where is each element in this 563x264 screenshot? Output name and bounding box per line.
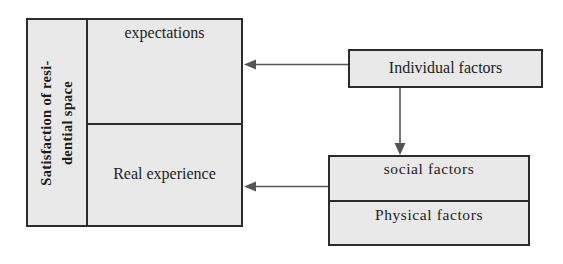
diagram-canvas: Satisfaction of resi- dential space expe… — [0, 0, 563, 264]
arrow-individual-to-social-physical — [395, 88, 406, 155]
physical-factors-cell: Physical factors — [330, 202, 528, 244]
real-experience-label: Real experience — [88, 165, 241, 183]
social-physical-factors-box: social factors Physical factors — [328, 155, 530, 246]
satisfaction-side-label-line2: dential space — [59, 80, 75, 164]
satisfaction-side-label-line1: Satisfaction of resi- — [38, 60, 54, 185]
individual-factors-label: Individual factors — [350, 59, 541, 77]
expectations-label: expectations — [88, 24, 241, 42]
satisfaction-side-label-cell: Satisfaction of resi- dential space — [28, 20, 88, 225]
expectations-cell: expectations — [88, 20, 241, 125]
social-factors-cell: social factors — [330, 157, 528, 202]
individual-factors-box: Individual factors — [348, 49, 543, 88]
physical-factors-label: Physical factors — [330, 206, 528, 224]
satisfaction-of-residential-space-box: Satisfaction of resi- dential space expe… — [26, 18, 243, 227]
arrow-social-to-real-experience — [244, 182, 328, 192]
satisfaction-side-label: Satisfaction of resi- dential space — [36, 60, 78, 185]
arrow-individual-to-expectations — [244, 60, 348, 70]
social-factors-label: social factors — [330, 160, 528, 178]
real-experience-cell: Real experience — [88, 125, 241, 225]
